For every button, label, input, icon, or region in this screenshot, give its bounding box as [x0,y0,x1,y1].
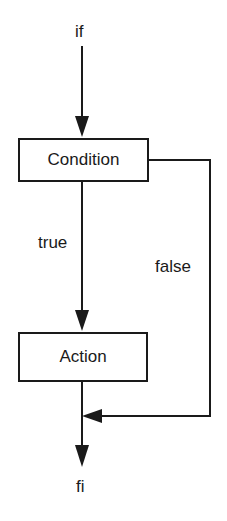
action-node-label: Action [59,347,106,367]
start-label: if [75,22,84,42]
action-node: Action [18,332,148,382]
condition-node-label: Condition [48,150,120,170]
arrowhead-down-icon [75,116,89,137]
true-edge-label: true [38,233,67,253]
arrowhead-down-icon [75,445,89,467]
flowchart-edges [0,0,227,521]
arrowhead-down-icon [75,310,89,331]
arrowhead-left-icon [82,409,102,423]
false-edge-label: false [155,257,191,277]
condition-node: Condition [18,138,149,182]
end-label: fi [76,477,85,497]
